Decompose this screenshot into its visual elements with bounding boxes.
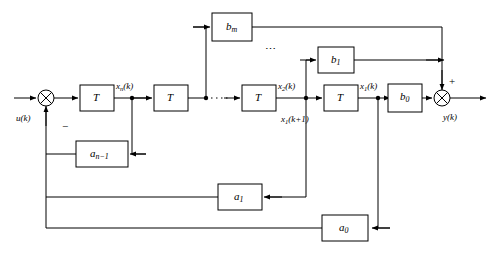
delay-block-1-label: T [93,92,99,103]
gain-b0-sub: 0 [406,95,410,104]
label-state-xn: xn(k) [116,82,133,92]
sign-negative: − [62,121,68,132]
delay-block-4-label: T [337,92,343,103]
block-diagram: u(k) − T T T T xn(k) x2(k) x1(k+1) x1(k)… [0,0,500,257]
label-state-x2: x2(k) [278,82,295,92]
gain-block-b1-label: b1 [331,54,340,67]
delay-block-3-label: T [255,92,261,103]
wire-xn-down-to-an1 [132,98,134,154]
diagram-canvas [0,0,500,257]
gain-b1-sub: 1 [337,58,341,67]
gain-block-bm-label: bm [226,21,237,34]
delay-block-2-label: T [167,92,173,103]
label-output-y: y(k) [443,113,457,122]
gain-block-an-1-label: an−1 [90,148,109,161]
gain-an-1-sub: n−1 [96,152,109,161]
gain-a0-sub: 0 [345,226,349,235]
gain-bm-sub: m [232,25,238,34]
wire-x1-down-to-a0 [374,98,378,228]
label-state-x1-next: x1(k+1) [281,115,309,125]
gain-a1-sub: 1 [240,195,244,204]
label-input-u: u(k) [16,114,31,123]
ellipsis-feedforward: ⋯ [265,44,277,55]
gain-block-a0-label: a0 [339,222,348,235]
wire-x1next-down-to-a1 [268,98,306,197]
label-state-x1: x1(k) [360,82,377,92]
wire-nodeC-up-to-b1 [306,60,314,98]
sign-positive: + [449,76,455,87]
gain-block-b0-label: b0 [400,91,409,104]
wire-nodeB-up [205,27,206,98]
gain-block-a1-label: a1 [234,191,243,204]
